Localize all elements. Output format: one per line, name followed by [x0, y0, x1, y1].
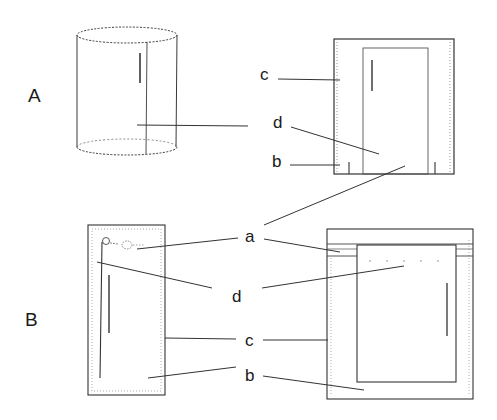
- dot-row: [369, 260, 439, 262]
- label-b-panel-a: b: [272, 152, 281, 171]
- label-d-panel-b: d: [232, 287, 241, 306]
- box-b-narrow-drawing: [88, 225, 165, 395]
- cylinder-drawing: [77, 27, 177, 155]
- panel-label-a: A: [28, 85, 41, 106]
- label-b-panel-b: b: [245, 366, 254, 385]
- label-d-panel-a: d: [273, 113, 282, 132]
- box-b-wide-drawing: [327, 229, 473, 399]
- label-c-panel-b: c: [245, 331, 254, 350]
- label-c-panel-a: c: [260, 65, 269, 84]
- diagram-figure: A B c d b a d c b: [0, 0, 497, 420]
- box-a-drawing: [334, 39, 454, 174]
- panel-label-b: B: [25, 309, 38, 330]
- label-a: a: [245, 227, 255, 246]
